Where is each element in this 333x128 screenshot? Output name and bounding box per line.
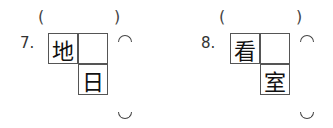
close-paren: ) [296, 9, 302, 25]
open-paren: ( [219, 9, 225, 25]
question-number: 8. [201, 36, 215, 51]
char-cell-bottom-right: 日 [78, 64, 108, 95]
arc-mark-top [118, 35, 132, 42]
arc-mark-bottom [118, 112, 132, 119]
arc-mark-top [300, 35, 314, 42]
close-paren: ) [114, 9, 120, 25]
char-cell-bottom-right: 室 [260, 64, 290, 95]
answer-cell-blank[interactable] [78, 33, 108, 64]
question-number: 7. [20, 36, 34, 51]
char-cell-top-left: 看 [230, 33, 260, 64]
arc-mark-bottom [300, 112, 314, 119]
answer-cell-blank[interactable] [260, 33, 290, 64]
char-cell-top-left: 地 [48, 33, 78, 64]
open-paren: ( [38, 9, 44, 25]
